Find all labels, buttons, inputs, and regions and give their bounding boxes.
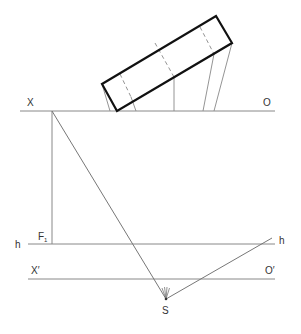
label-x: X	[27, 97, 34, 108]
sight-line-left	[52, 111, 166, 299]
label-h-left: h	[15, 239, 21, 250]
label-x-prime: X′	[31, 265, 40, 276]
label-h-right: h	[279, 235, 285, 246]
label-f1: F1	[38, 231, 48, 243]
perspective-diagram: X O F1 h h X′ O′ S	[0, 0, 301, 334]
label-s: S	[162, 305, 169, 316]
label-f1-sub: 1	[44, 237, 48, 243]
sight-line-right	[166, 238, 272, 299]
label-o: O	[263, 97, 271, 108]
label-o-prime: O′	[265, 265, 275, 276]
